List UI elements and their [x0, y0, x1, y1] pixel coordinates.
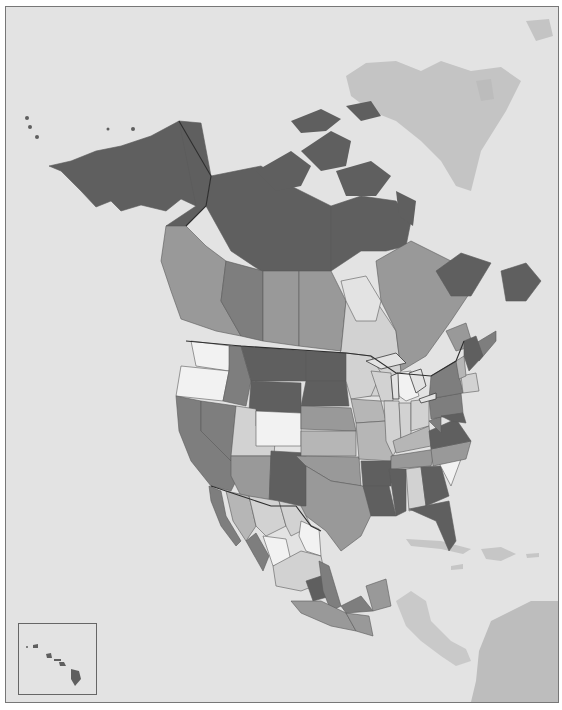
iowa [351, 399, 386, 423]
hawaii-map [19, 624, 96, 694]
newfoundland [501, 263, 541, 301]
aleutian-islands [25, 116, 135, 139]
yucatan [366, 579, 391, 611]
arkansas [361, 461, 391, 486]
north-dakota [306, 351, 346, 381]
map-frame [5, 6, 559, 703]
greenland [346, 19, 553, 191]
colorado [256, 411, 301, 446]
map-figure [0, 0, 562, 710]
caribbean-islands [406, 539, 539, 570]
ohio [411, 399, 429, 431]
nuevo-leon-tamaulipas [299, 521, 321, 556]
hawaii-inset [18, 623, 97, 695]
south-dakota [301, 381, 349, 406]
oregon [176, 366, 229, 401]
saskatchewan [263, 271, 299, 346]
manitoba [299, 271, 346, 351]
central-south-america [396, 591, 558, 702]
nebraska [301, 406, 356, 431]
wyoming [249, 381, 301, 413]
montana [241, 346, 306, 381]
north-america-map [6, 7, 558, 702]
tabasco-campeche [341, 596, 373, 613]
kansas [301, 431, 356, 456]
washington [191, 341, 231, 371]
